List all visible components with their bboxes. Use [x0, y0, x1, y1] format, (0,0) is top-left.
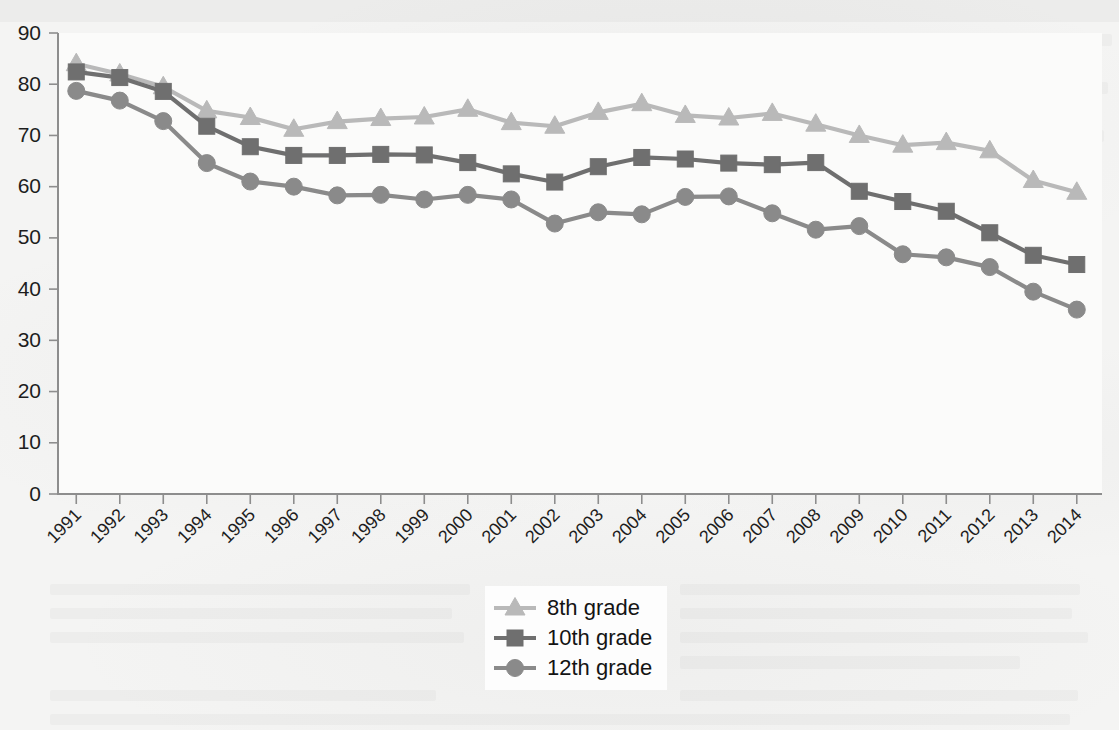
- data-point-square: [721, 155, 737, 171]
- data-point-square: [373, 146, 389, 162]
- x-axis: 1991199219931994199519961997199819992000…: [43, 494, 1086, 547]
- x-tick-label: 2000: [434, 505, 476, 547]
- data-point-square: [416, 147, 432, 163]
- x-tick-label: 2011: [914, 505, 956, 547]
- y-tick-label: 10: [18, 430, 41, 453]
- data-point-circle: [894, 246, 911, 263]
- legend-label: 12th grade: [547, 655, 652, 680]
- y-tick-label: 20: [18, 379, 41, 402]
- y-tick-label: 90: [18, 21, 41, 44]
- data-point-circle: [590, 204, 607, 221]
- data-point-square: [329, 147, 345, 163]
- data-point-circle: [68, 82, 85, 99]
- data-point-square: [1069, 257, 1085, 273]
- line-chart: 0102030405060708090199119921993199419951…: [0, 0, 1119, 730]
- legend: 8th grade10th grade12th grade: [485, 586, 667, 690]
- y-axis: 0102030405060708090: [18, 21, 58, 505]
- x-tick-label: 2009: [826, 505, 868, 547]
- data-point-square: [68, 64, 84, 80]
- y-tick-label: 80: [18, 72, 41, 95]
- data-point-square: [242, 139, 258, 155]
- data-point-circle: [677, 188, 694, 205]
- data-point-circle: [329, 187, 346, 204]
- x-tick-label: 1998: [347, 505, 389, 547]
- data-point-square: [982, 225, 998, 241]
- x-tick-label: 1997: [304, 505, 346, 547]
- x-tick-label: 2002: [521, 505, 563, 547]
- legend-label: 8th grade: [547, 595, 640, 620]
- x-tick-label: 2014: [1043, 505, 1085, 547]
- data-point-square: [503, 166, 519, 182]
- data-point-square: [764, 157, 780, 173]
- y-tick-label: 60: [18, 174, 41, 197]
- data-point-circle: [242, 173, 259, 190]
- x-tick-label: 2001: [478, 505, 520, 547]
- x-tick-label: 1996: [260, 505, 302, 547]
- data-point-circle: [1025, 283, 1042, 300]
- data-point-square: [155, 83, 171, 99]
- data-point-circle: [1068, 301, 1085, 318]
- data-point-square: [286, 147, 302, 163]
- data-point-square: [460, 155, 476, 171]
- data-point-square: [634, 149, 650, 165]
- data-point-square: [1025, 247, 1041, 263]
- data-point-circle: [416, 191, 433, 208]
- data-point-square: [112, 70, 128, 86]
- x-tick-label: 2010: [869, 505, 911, 547]
- y-tick-label: 70: [18, 123, 41, 146]
- chart-canvas: 0102030405060708090199119921993199419951…: [0, 0, 1119, 730]
- y-tick-label: 40: [18, 277, 41, 300]
- x-tick-label: 1994: [173, 505, 215, 547]
- x-tick-label: 1991: [43, 505, 85, 547]
- x-tick-label: 2005: [652, 505, 694, 547]
- data-point-square: [547, 174, 563, 190]
- data-point-square: [851, 183, 867, 199]
- data-point-circle: [938, 249, 955, 266]
- data-point-square: [938, 203, 954, 219]
- data-point-circle: [155, 113, 172, 130]
- x-tick-label: 2004: [608, 505, 650, 547]
- x-tick-label: 2012: [956, 505, 998, 547]
- x-tick-label: 2013: [1000, 505, 1042, 547]
- data-point-circle: [111, 92, 128, 109]
- data-point-circle: [503, 191, 520, 208]
- data-point-circle: [198, 155, 215, 172]
- data-point-square: [507, 630, 523, 646]
- data-point-circle: [764, 205, 781, 222]
- x-tick-label: 2007: [739, 505, 781, 547]
- data-point-circle: [459, 186, 476, 203]
- x-tick-label: 2006: [695, 505, 737, 547]
- data-point-circle: [507, 660, 524, 677]
- data-point-square: [808, 155, 824, 171]
- x-tick-label: 1995: [217, 505, 259, 547]
- x-tick-label: 1992: [86, 505, 128, 547]
- data-point-square: [895, 194, 911, 210]
- data-point-circle: [372, 186, 389, 203]
- data-point-circle: [851, 218, 868, 235]
- x-tick-label: 2008: [782, 505, 824, 547]
- data-point-circle: [807, 221, 824, 238]
- data-point-square: [677, 151, 693, 167]
- data-point-circle: [720, 188, 737, 205]
- data-point-circle: [633, 206, 650, 223]
- y-tick-label: 50: [18, 225, 41, 248]
- x-tick-label: 2003: [565, 505, 607, 547]
- data-point-square: [590, 159, 606, 175]
- x-tick-label: 1999: [391, 505, 433, 547]
- legend-label: 10th grade: [547, 625, 652, 650]
- data-point-circle: [546, 215, 563, 232]
- y-tick-label: 0: [29, 482, 41, 505]
- data-point-circle: [285, 178, 302, 195]
- data-point-circle: [981, 259, 998, 276]
- y-tick-label: 30: [18, 328, 41, 351]
- x-tick-label: 1993: [130, 505, 172, 547]
- data-point-square: [199, 118, 215, 134]
